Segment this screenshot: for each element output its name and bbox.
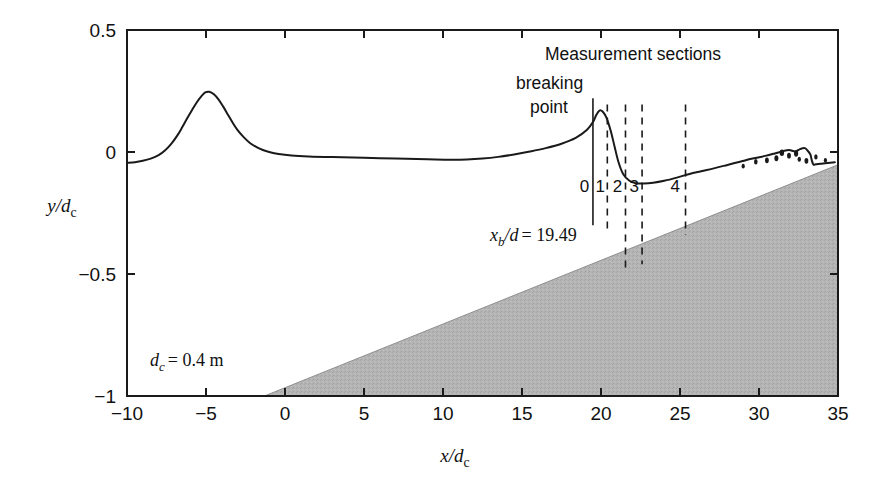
x-tick-label: 0: [280, 403, 291, 424]
x-tick-label: 20: [590, 403, 611, 424]
dc-value: = 0.4 m: [168, 350, 224, 370]
x-tick-label: 10: [432, 403, 453, 424]
x-tick-label: 30: [748, 403, 769, 424]
x-tick-label: 35: [827, 403, 848, 424]
y-axis-title-den: d: [61, 195, 71, 216]
dc-sub: c: [159, 359, 165, 374]
y-tick-label: −1: [94, 386, 116, 407]
measurement-sections-label: Measurement sections: [545, 44, 721, 64]
x-axis-title-den: d: [454, 445, 464, 466]
x-axis-title: x/dc: [439, 445, 469, 470]
section-number-label: 3: [629, 177, 638, 196]
section-number-label: 4: [671, 177, 680, 196]
figure-root: −10−505101520253035 0.50−0.5−1 01234 Mea…: [0, 0, 875, 482]
x-tick-label: 25: [669, 403, 690, 424]
xb-x: x: [489, 225, 498, 245]
section-number-label: 1: [595, 177, 604, 196]
breaking-label: breaking: [516, 73, 583, 93]
y-axis-title-sub: c: [71, 205, 77, 220]
point-label: point: [530, 97, 568, 117]
y-tick-label: 0: [105, 142, 116, 163]
x-tick-label: −5: [195, 403, 217, 424]
y-tick-label: 0.5: [90, 20, 116, 41]
y-axis-title-num: y: [45, 195, 56, 216]
y-axis-title: y/dc: [45, 195, 76, 220]
wave-profile-chart: −10−505101520253035 0.50−0.5−1 01234 Mea…: [0, 0, 875, 482]
xb-rest: /d: [503, 225, 519, 245]
x-tick-label: 15: [511, 403, 532, 424]
y-tick-label: −0.5: [78, 264, 116, 285]
x-tick-label: 5: [359, 403, 370, 424]
xb-value: = 19.49: [522, 225, 577, 245]
section-number-label: 2: [613, 177, 622, 196]
section-number-label: 0: [580, 177, 589, 196]
x-axis-title-sub: c: [464, 455, 470, 470]
